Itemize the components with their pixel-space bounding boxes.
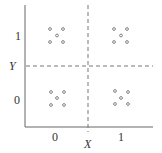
cluster-x1-y1 (113, 28, 129, 44)
y-tick-label-1: 1 (15, 30, 21, 42)
scatter-diagram (0, 0, 162, 153)
cluster-x1-y0 (114, 90, 130, 106)
x-tick-label-1: 1 (118, 131, 124, 143)
cluster-x0-y0 (50, 91, 66, 107)
cluster-x0-y1 (49, 28, 65, 44)
x-threshold-label: X (84, 138, 91, 150)
y-threshold-label: Y (9, 60, 16, 72)
y-tick-label-0: 0 (14, 94, 20, 106)
x-tick-label-0: 0 (52, 131, 58, 143)
